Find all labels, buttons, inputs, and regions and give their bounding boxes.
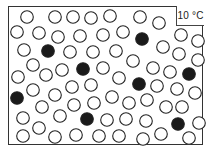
hollow-particle [56, 64, 69, 77]
temperature-label: 10 °C [176, 6, 204, 26]
hollow-particle [40, 69, 53, 82]
hollow-particle [173, 48, 186, 61]
hollow-particle [64, 46, 77, 59]
hollow-particle [117, 26, 130, 39]
hollow-particle [87, 46, 100, 59]
hollow-particle [189, 87, 202, 100]
hollow-particle [106, 91, 119, 104]
hollow-particle [93, 130, 106, 143]
hollow-particle [88, 97, 101, 110]
hollow-particle [164, 66, 177, 79]
hollow-particle [52, 31, 65, 44]
hollow-particle [74, 30, 87, 43]
filled-particle [136, 33, 149, 46]
hollow-particle [18, 44, 31, 57]
hollow-particle [97, 29, 110, 42]
hollow-particle [104, 10, 117, 23]
hollow-particle [110, 45, 123, 58]
hollow-particle [175, 29, 188, 42]
hollow-particle [113, 72, 126, 85]
filled-particle [133, 78, 146, 91]
hollow-particle [193, 117, 206, 130]
filled-particle [11, 92, 24, 105]
hollow-particle [54, 110, 67, 123]
hollow-particle [147, 62, 160, 75]
hollow-particle [155, 128, 168, 141]
hollow-particle [12, 71, 25, 84]
hollow-particle [134, 11, 147, 24]
hollow-particle [176, 101, 189, 114]
hollow-particle [192, 35, 205, 48]
hollow-particle [17, 130, 30, 143]
hollow-particle [33, 27, 46, 40]
filled-particle [81, 113, 94, 126]
hollow-particle [85, 12, 98, 25]
hollow-particle [153, 17, 166, 30]
hollow-particle [21, 11, 34, 24]
filled-particle [77, 63, 90, 76]
hollow-particle [49, 89, 62, 102]
hollow-particle [140, 115, 153, 128]
filled-particle [172, 118, 185, 131]
hollow-particle [192, 54, 205, 67]
hollow-particle [160, 101, 173, 114]
hollow-particle [141, 94, 154, 107]
hollow-particle [97, 62, 110, 75]
hollow-particle [183, 132, 196, 145]
hollow-particle [27, 59, 40, 72]
hollow-particle [27, 84, 40, 97]
hollow-particle [101, 114, 114, 127]
hollow-particle [70, 129, 83, 142]
hollow-particle [120, 113, 133, 126]
hollow-particle [68, 99, 81, 112]
hollow-particle [67, 11, 80, 24]
hollow-particle [49, 131, 62, 144]
hollow-particle [49, 11, 62, 24]
hollow-particle [127, 55, 140, 68]
filled-particle [183, 68, 196, 81]
hollow-particle [171, 83, 184, 96]
filled-particle [42, 45, 55, 58]
hollow-particle [157, 41, 170, 54]
hollow-particle [17, 112, 30, 125]
hollow-particle [113, 130, 126, 143]
hollow-particle [137, 133, 150, 146]
hollow-particle [33, 122, 46, 135]
hollow-particle [123, 97, 136, 110]
hollow-particle [11, 26, 24, 39]
hollow-particle [85, 79, 98, 92]
hollow-particle [66, 81, 79, 94]
hollow-particle [36, 101, 49, 114]
hollow-particle [151, 80, 164, 93]
